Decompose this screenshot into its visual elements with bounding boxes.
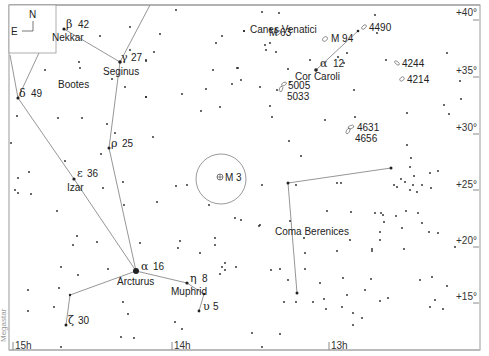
m94-label: M 94 xyxy=(331,33,354,44)
compass: N E xyxy=(9,5,56,53)
nekkar-label: Nekkar xyxy=(52,32,84,43)
alpha-boo-number: 16 xyxy=(153,261,165,272)
ra-13h: 13h xyxy=(331,340,348,351)
ngc4244-label: 4244 xyxy=(402,58,425,69)
dec-plus15: +15° xyxy=(456,291,477,302)
muphrid-label: Muphrid xyxy=(171,286,207,297)
arcturus-label: Arcturus xyxy=(117,276,154,287)
alpha-cvn-number: 12 xyxy=(333,58,345,69)
gamma-boo-number: 27 xyxy=(131,52,143,63)
epsilon-boo-number: 36 xyxy=(87,168,99,179)
zeta-boo-letter: ζ xyxy=(68,314,74,327)
ngc4214-label: 4214 xyxy=(407,74,430,85)
delta-boo-number: 49 xyxy=(31,88,43,99)
beta-boo-number: 42 xyxy=(78,19,90,30)
delta-boo-letter: δ xyxy=(19,87,26,100)
dec-plus40: +40° xyxy=(456,7,477,18)
m3-label: M 3 xyxy=(225,172,242,183)
upsilon-boo-letter: υ xyxy=(203,300,210,313)
software-credit: Megastar xyxy=(0,308,8,342)
dec-plus35: +35° xyxy=(456,65,477,76)
dec-plus20: +20° xyxy=(456,235,477,246)
ngc5033-label: 5033 xyxy=(287,91,310,102)
globular-cluster-icon xyxy=(217,174,223,180)
rho-boo-number: 25 xyxy=(122,138,134,149)
seginus-label: Seginus xyxy=(103,66,139,77)
constellation-canes-venatici: Canes Venatici xyxy=(250,24,317,35)
alpha-cvn-letter: α xyxy=(320,57,328,70)
eta-boo-number: 8 xyxy=(202,273,208,284)
star-chart: N E xyxy=(0,0,489,356)
rho-boo-letter: ρ xyxy=(111,137,117,150)
beta-boo-letter: β xyxy=(66,18,72,31)
cor-caroli-label: Cor Caroli xyxy=(295,71,340,82)
gamma-boo-letter: γ xyxy=(121,51,128,64)
constellation-bootes: Bootes xyxy=(58,79,89,90)
zeta-boo-number: 30 xyxy=(78,315,90,326)
epsilon-boo-letter: ε xyxy=(77,167,83,180)
alpha-boo-letter: α xyxy=(141,260,149,273)
ngc4490-label: 4490 xyxy=(369,22,392,33)
izar-label: Izar xyxy=(67,182,84,193)
ra-14h: 14h xyxy=(174,340,191,351)
east-label: E xyxy=(11,26,18,37)
north-label: N xyxy=(29,9,36,20)
dec-plus30: +30° xyxy=(456,122,477,133)
upsilon-boo-number: 5 xyxy=(213,301,219,312)
ngc4631-label: 4631 xyxy=(357,122,380,133)
ra-15h: 15h xyxy=(15,340,32,351)
constellation-coma-berenices: Coma Berenices xyxy=(275,226,349,237)
ngc4656-label: 4656 xyxy=(355,133,378,144)
eta-boo-letter: η xyxy=(190,272,197,285)
dec-plus25: +25° xyxy=(456,179,477,190)
